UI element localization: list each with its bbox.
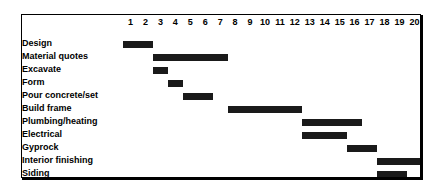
- grid-filler-cell: [153, 28, 168, 36]
- grid-filler-cell: [198, 28, 213, 36]
- grid-cell: [138, 88, 153, 101]
- grid-cell: [153, 62, 168, 75]
- grid-cell: [168, 166, 183, 179]
- grid-cell: [362, 75, 377, 88]
- task-label-header: [22, 15, 123, 28]
- grid-cell: [243, 75, 258, 88]
- grid-cell: [183, 75, 198, 88]
- grid-filler-cell: [243, 28, 258, 36]
- grid-cell: [317, 88, 332, 101]
- grid-cell: [347, 140, 362, 153]
- grid-cell: [317, 140, 332, 153]
- grid-cell: [392, 101, 407, 114]
- grid-cell: [377, 49, 392, 62]
- grid-cell: [258, 166, 273, 179]
- grid-cell: [392, 153, 407, 166]
- grid-cell: [317, 153, 332, 166]
- timeline-tick-5: 5: [183, 15, 198, 28]
- grid-cell: [302, 140, 317, 153]
- grid-cell: [183, 140, 198, 153]
- grid-filler-cell: [213, 28, 228, 36]
- grid-cell: [272, 166, 287, 179]
- grid-cell: [213, 75, 228, 88]
- grid-cell: [153, 88, 168, 101]
- grid-cell: [123, 88, 138, 101]
- grid-cell: [258, 62, 273, 75]
- grid-cell: [213, 88, 228, 101]
- task-label: Excavate: [22, 62, 123, 75]
- gantt-body: DesignMaterial quotesExcavateFormPour co…: [22, 28, 422, 179]
- grid-filler-cell: [392, 28, 407, 36]
- grid-cell: [407, 153, 422, 166]
- grid-cell: [272, 62, 287, 75]
- grid-filler-cell: [302, 28, 317, 36]
- gantt-chart: 1234567891011121314151617181920 DesignMa…: [21, 14, 421, 178]
- timeline-tick-14: 14: [317, 15, 332, 28]
- grid-cell: [153, 114, 168, 127]
- grid-cell: [272, 114, 287, 127]
- grid-cell: [287, 140, 302, 153]
- grid-cell: [198, 101, 213, 114]
- grid-cell: [183, 153, 198, 166]
- grid-cell: [258, 75, 273, 88]
- grid-cell: [198, 166, 213, 179]
- grid-cell: [138, 114, 153, 127]
- grid-cell: [347, 88, 362, 101]
- grid-cell: [302, 36, 317, 49]
- grid-cell: [243, 88, 258, 101]
- grid-cell: [332, 36, 347, 49]
- grid-cell: [258, 153, 273, 166]
- gantt-header: 1234567891011121314151617181920: [22, 15, 422, 28]
- grid-cell: [123, 166, 138, 179]
- grid-cell: [332, 153, 347, 166]
- grid-cell: [317, 75, 332, 88]
- grid-cell: [258, 88, 273, 101]
- grid-cell: [407, 75, 422, 88]
- grid-cell: [317, 62, 332, 75]
- grid-cell: [198, 153, 213, 166]
- grid-cell: [168, 88, 183, 101]
- grid-cell: [377, 88, 392, 101]
- grid-cell: [138, 153, 153, 166]
- grid-cell: [302, 166, 317, 179]
- grid-cell: [213, 49, 228, 62]
- grid-cell: [258, 127, 273, 140]
- grid-cell: [272, 127, 287, 140]
- grid-cell: [228, 114, 243, 127]
- timeline-tick-9: 9: [243, 15, 258, 28]
- grid-cell: [183, 49, 198, 62]
- task-label: Form: [22, 75, 123, 88]
- grid-cell: [287, 153, 302, 166]
- gantt-row: Siding: [22, 166, 422, 179]
- grid-cell: [138, 140, 153, 153]
- grid-cell: [302, 49, 317, 62]
- timeline-tick-11: 11: [272, 15, 287, 28]
- grid-cell: [198, 49, 213, 62]
- timeline-tick-6: 6: [198, 15, 213, 28]
- grid-cell: [213, 153, 228, 166]
- gantt-row: Gyprock: [22, 140, 422, 153]
- task-label: Plumbing/heating: [22, 114, 123, 127]
- grid-cell: [287, 49, 302, 62]
- task-label: Electrical: [22, 127, 123, 140]
- grid-cell: [317, 49, 332, 62]
- grid-cell: [407, 140, 422, 153]
- grid-cell: [407, 62, 422, 75]
- task-bar[interactable]: [153, 67, 168, 74]
- grid-filler-cell: [407, 28, 422, 36]
- grid-cell: [362, 140, 377, 153]
- grid-filler-cell: [138, 28, 153, 36]
- task-label: Design: [22, 36, 123, 49]
- label-spacer-cell: [22, 28, 123, 36]
- grid-cell: [377, 62, 392, 75]
- gantt-row: Material quotes: [22, 49, 422, 62]
- grid-cell: [228, 88, 243, 101]
- task-bar[interactable]: [168, 80, 183, 87]
- grid-cell: [272, 153, 287, 166]
- grid-cell: [213, 114, 228, 127]
- grid-cell: [228, 49, 243, 62]
- grid-cell: [287, 127, 302, 140]
- grid-cell: [377, 166, 392, 179]
- grid-cell: [228, 127, 243, 140]
- grid-cell: [228, 140, 243, 153]
